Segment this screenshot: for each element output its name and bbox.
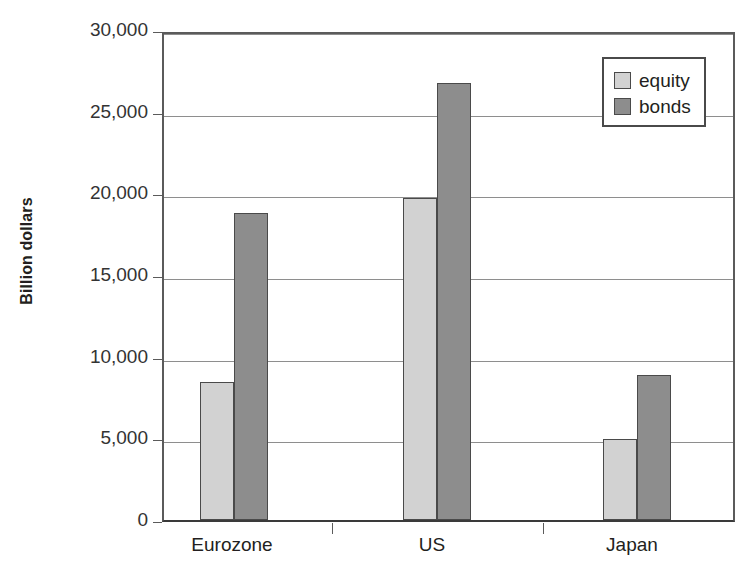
y-axis-label-25000: 25,000: [28, 101, 148, 123]
legend-rows: equitybonds: [614, 67, 704, 119]
bar-eurozone-bonds: [234, 213, 268, 520]
y-axis-label-5000: 5,000: [28, 427, 148, 449]
x-tick-0: [332, 523, 333, 534]
y-axis-label-20000: 20,000: [28, 182, 148, 204]
bar-eurozone-equity: [200, 382, 234, 520]
y-tick-20000: [153, 195, 162, 196]
y-tick-15000: [153, 277, 162, 278]
legend-swatch-equity: [614, 72, 631, 89]
x-axis-label-japan: Japan: [562, 534, 702, 556]
y-axis-label-30000: 30,000: [28, 19, 148, 41]
legend: equitybonds: [602, 57, 706, 127]
y-axis-label-0: 0: [28, 509, 148, 531]
gridline-30000: [164, 34, 733, 35]
y-tick-30000: [153, 32, 162, 33]
legend-item-bonds: bonds: [614, 93, 704, 119]
bar-us-equity: [403, 198, 437, 520]
y-tick-10000: [153, 359, 162, 360]
legend-swatch-bonds: [614, 98, 631, 115]
legend-label-equity: equity: [639, 71, 690, 90]
bar-us-bonds: [437, 83, 471, 520]
y-tick-0: [153, 522, 162, 523]
x-axis-label-eurozone: Eurozone: [162, 534, 302, 556]
bar-chart: Billion dollars 05,00010,00015,00020,000…: [0, 0, 755, 573]
legend-item-equity: equity: [614, 67, 704, 93]
legend-label-bonds: bonds: [639, 97, 691, 116]
x-axis-label-us: US: [362, 534, 502, 556]
y-tick-25000: [153, 114, 162, 115]
y-axis-label-10000: 10,000: [28, 346, 148, 368]
x-tick-1: [543, 523, 544, 534]
y-tick-5000: [153, 440, 162, 441]
y-axis-label-15000: 15,000: [28, 264, 148, 286]
bar-japan-equity: [603, 439, 637, 520]
bar-japan-bonds: [637, 375, 671, 520]
